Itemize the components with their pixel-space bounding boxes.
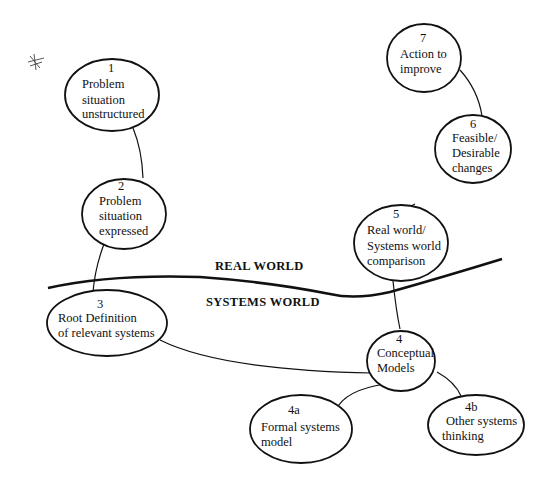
svg-text:Desirable: Desirable xyxy=(452,146,500,160)
svg-text:Feasible/: Feasible/ xyxy=(452,131,498,145)
svg-text:situation: situation xyxy=(82,93,126,107)
node-3: 3 Root Definition of relevant systems xyxy=(47,290,167,356)
node-2: 2 Problem situation expressed xyxy=(82,179,166,249)
edge-4-4a xyxy=(336,384,385,410)
svg-text:Conceptual: Conceptual xyxy=(377,346,434,360)
svg-text:7: 7 xyxy=(420,31,426,45)
svg-text:Problem: Problem xyxy=(82,77,125,91)
svg-text:Systems world: Systems world xyxy=(367,239,442,253)
svg-text:situation: situation xyxy=(99,209,143,223)
svg-text:5: 5 xyxy=(393,207,399,221)
svg-text:changes: changes xyxy=(452,161,492,175)
real-world-label: REAL WORLD xyxy=(215,259,304,273)
node-5: 5 Real world/ Systems world comparison xyxy=(354,205,448,281)
svg-text:of relevant systems: of relevant systems xyxy=(58,326,155,340)
svg-text:Root Definition: Root Definition xyxy=(58,311,138,325)
svg-text:Other systems: Other systems xyxy=(446,414,517,428)
svg-text:thinking: thinking xyxy=(442,429,484,443)
edge-6-7 xyxy=(460,70,482,116)
svg-text:4: 4 xyxy=(396,332,403,346)
node-6: 6 Feasible/ Desirable changes xyxy=(435,115,511,183)
svg-text:Problem: Problem xyxy=(99,194,142,208)
node-1: 1 Problem situation unstructured xyxy=(65,59,159,131)
svg-text:4b: 4b xyxy=(465,400,478,414)
svg-text:expressed: expressed xyxy=(99,224,149,238)
svg-text:4a: 4a xyxy=(288,403,300,417)
ssm-diagram: REAL WORLD SYSTEMS WORLD 1 Problem situa… xyxy=(0,0,555,486)
edge-1-2 xyxy=(133,128,143,178)
edge-3-4 xyxy=(160,340,373,373)
node-4a: 4a Formal systems model xyxy=(250,395,352,463)
svg-text:3: 3 xyxy=(97,297,103,311)
node-7: 7 Action to improve xyxy=(387,24,461,92)
svg-text:Models: Models xyxy=(377,361,415,375)
svg-text:Real world/: Real world/ xyxy=(367,223,426,237)
svg-text:model: model xyxy=(261,435,293,449)
svg-text:2: 2 xyxy=(118,179,124,193)
node-4b: 4b Other systems thinking xyxy=(428,395,524,455)
svg-text:unstructured: unstructured xyxy=(82,107,145,121)
edge-2-3 xyxy=(93,244,104,292)
systems-world-label: SYSTEMS WORLD xyxy=(206,295,320,309)
svg-text:Action to: Action to xyxy=(400,47,447,61)
svg-text:comparison: comparison xyxy=(367,254,426,268)
node-4: 4 Conceptual Models xyxy=(367,331,435,391)
edge-4-4b xyxy=(437,372,461,396)
star-mark-icon xyxy=(28,54,44,70)
svg-text:1: 1 xyxy=(108,61,114,75)
svg-text:6: 6 xyxy=(470,117,476,131)
svg-text:Formal systems: Formal systems xyxy=(261,420,340,434)
svg-text:improve: improve xyxy=(400,62,442,76)
